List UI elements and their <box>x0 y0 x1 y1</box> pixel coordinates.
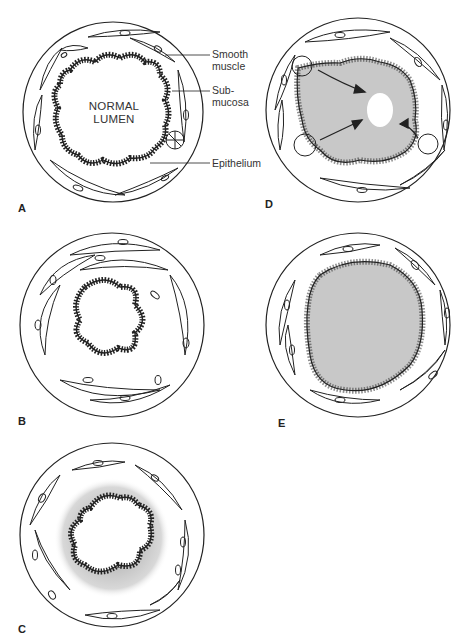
panel-letter-a: A <box>18 202 26 214</box>
label-line-1: Smooth <box>212 48 248 60</box>
label-line-2: mucosa <box>212 96 249 108</box>
smooth-muscle-label: Smooth muscle <box>212 48 248 72</box>
airway-constricted-diagram <box>0 215 240 430</box>
normal-lumen-label: NORMAL LUMEN <box>84 100 144 126</box>
airway-filled-lumen-diagram <box>250 215 475 430</box>
submucosa-label: Sub- mucosa <box>212 84 249 108</box>
panel-a: NORMAL LUMEN Smooth muscle Sub- mucosa E… <box>0 0 240 215</box>
panel-b: B <box>0 215 240 430</box>
panel-d: D <box>250 0 475 215</box>
airway-edema-diagram <box>0 430 240 640</box>
airway-mucus-plug-diagram <box>250 0 475 215</box>
panel-letter-b: B <box>18 415 26 427</box>
panel-e: E <box>250 215 475 430</box>
panel-letter-e: E <box>278 417 285 429</box>
label-line-2: muscle <box>212 60 248 72</box>
lumen-label-line-2: LUMEN <box>84 113 144 126</box>
panel-letter-d: D <box>265 198 273 210</box>
panel-c: C <box>0 430 240 640</box>
lumen-label-line-1: NORMAL <box>84 100 144 113</box>
label-line-1: Sub- <box>212 84 249 96</box>
panel-letter-c: C <box>18 623 26 635</box>
